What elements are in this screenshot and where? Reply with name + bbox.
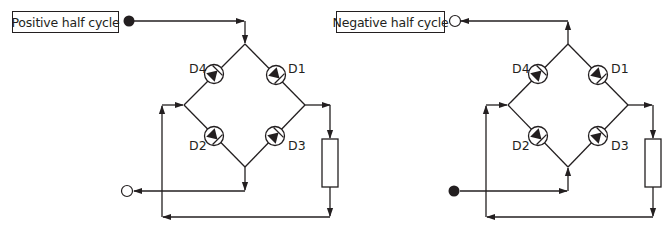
- diode-label-d1: D1: [611, 63, 629, 76]
- load-wire: [486, 105, 653, 217]
- diode-label-d4: D4: [189, 63, 207, 76]
- load-wire: [162, 105, 330, 217]
- diode-label-d3: D3: [288, 140, 306, 153]
- load-resistor: [322, 139, 338, 187]
- input-wire: [460, 168, 568, 191]
- diode-label-d2: D2: [189, 140, 207, 153]
- bridge-rectifier-diagram: [0, 0, 671, 230]
- output-wire: [134, 167, 245, 191]
- diode-label-d2: D2: [512, 140, 530, 153]
- input-terminal-filled: [124, 16, 135, 27]
- output-terminal-open: [122, 186, 133, 197]
- output-wire: [461, 21, 568, 44]
- positive-half-cycle-label: Positive half cycle: [12, 11, 119, 33]
- diode-label-d4: D4: [512, 63, 530, 76]
- diode-label-d1: D1: [288, 63, 306, 76]
- diode-label-d3: D3: [611, 140, 629, 153]
- input-terminal-filled: [449, 186, 460, 197]
- positive-half-cycle-panel: [122, 16, 339, 218]
- input-wire: [134, 21, 245, 43]
- negative-half-cycle-label: Negative half cycle: [336, 11, 445, 33]
- output-terminal-open: [450, 16, 461, 27]
- negative-half-cycle-panel: [449, 16, 662, 218]
- load-resistor: [645, 139, 661, 187]
